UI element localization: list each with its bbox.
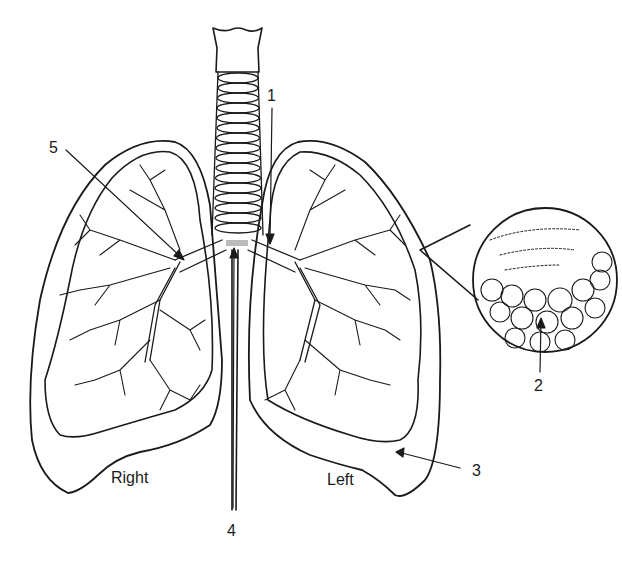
leader-lines bbox=[66, 108, 545, 508]
label-right-lung: Right bbox=[111, 470, 148, 486]
right-lung-inner bbox=[45, 152, 213, 437]
label-4: 4 bbox=[227, 523, 236, 539]
label-3: 3 bbox=[472, 463, 481, 479]
label-1: 1 bbox=[267, 88, 276, 104]
trachea bbox=[212, 72, 263, 246]
label-2: 2 bbox=[534, 378, 543, 394]
larynx bbox=[213, 28, 262, 72]
left-lung-pleura-outer bbox=[249, 141, 440, 496]
left-lung-inner bbox=[263, 152, 420, 442]
left-bronchial-tree bbox=[265, 165, 410, 410]
label-5: 5 bbox=[49, 140, 58, 156]
inset-connector-lines bbox=[420, 225, 478, 300]
right-bronchial-tree bbox=[60, 165, 205, 410]
lungs-diagram bbox=[0, 0, 622, 565]
label-left-lung: Left bbox=[327, 472, 354, 488]
alveoli-inset bbox=[473, 208, 617, 352]
